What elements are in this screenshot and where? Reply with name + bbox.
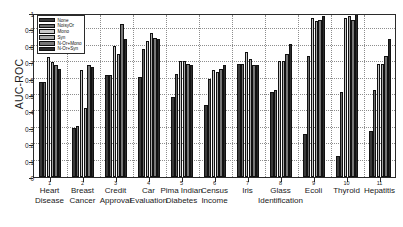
legend: NoneNoisyOrMonoSynN-Or+MonoN-Or+Syn bbox=[37, 15, 85, 54]
legend-item: NoisyOr bbox=[39, 23, 82, 28]
legend-label: N-Or+Syn bbox=[58, 46, 79, 51]
plot-area bbox=[33, 14, 396, 178]
bar bbox=[322, 16, 325, 177]
legend-label: Syn bbox=[58, 35, 66, 40]
legend-swatch bbox=[39, 18, 55, 23]
bar bbox=[388, 39, 391, 177]
bar bbox=[256, 65, 259, 177]
legend-swatch bbox=[39, 24, 55, 29]
bar-group bbox=[100, 15, 133, 177]
auc-roc-bar-chart: AUC-ROC 00.10.20.30.40.50.60.70.80.91 12… bbox=[0, 0, 403, 227]
legend-label: Mono bbox=[58, 29, 70, 34]
legend-item: Syn bbox=[39, 35, 82, 40]
bar bbox=[157, 39, 160, 177]
bar-group bbox=[298, 15, 331, 177]
legend-swatch bbox=[39, 35, 55, 40]
bar-group bbox=[133, 15, 166, 177]
legend-label: N-Or+Mono bbox=[58, 41, 82, 46]
legend-label: NoisyOr bbox=[58, 23, 75, 28]
legend-label: None bbox=[58, 18, 69, 23]
y-axis-tick-mark bbox=[29, 162, 33, 163]
y-axis-tick-mark bbox=[29, 47, 33, 48]
y-axis-tick-mark bbox=[29, 63, 33, 64]
bar bbox=[355, 14, 358, 177]
bar bbox=[223, 65, 226, 177]
y-axis-tick-mark bbox=[29, 129, 33, 130]
bar bbox=[289, 44, 292, 177]
bar bbox=[91, 67, 94, 177]
bar-group bbox=[166, 15, 199, 177]
bar-group bbox=[232, 15, 265, 177]
y-axis-tick-mark bbox=[29, 145, 33, 146]
y-axis-tick-mark bbox=[29, 14, 33, 15]
bar bbox=[124, 39, 127, 177]
legend-item: Mono bbox=[39, 29, 82, 34]
bar bbox=[58, 69, 61, 177]
legend-swatch bbox=[39, 47, 55, 52]
y-axis-tick-mark bbox=[29, 30, 33, 31]
bar-group bbox=[364, 15, 396, 177]
y-axis-tick-mark bbox=[29, 178, 33, 179]
y-axis-tick-mark bbox=[29, 112, 33, 113]
bar-group bbox=[199, 15, 232, 177]
legend-swatch bbox=[39, 41, 55, 46]
legend-item: None bbox=[39, 17, 82, 22]
bar-group bbox=[265, 15, 298, 177]
legend-swatch bbox=[39, 29, 55, 34]
legend-item: N-Or+Syn bbox=[39, 46, 82, 51]
bar-group bbox=[331, 15, 364, 177]
y-axis-tick-mark bbox=[29, 96, 33, 97]
bar bbox=[190, 65, 193, 177]
y-axis-tick-mark bbox=[29, 80, 33, 81]
x-axis-category-label: Hepatitis bbox=[351, 186, 403, 196]
legend-item: N-Or+Mono bbox=[39, 41, 82, 46]
